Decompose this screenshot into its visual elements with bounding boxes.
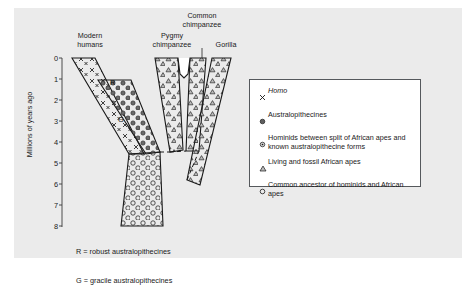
legend-label-homo: Homo <box>268 87 287 96</box>
legend-item-hominids-between-split: Hominids between split of African apes a… <box>257 134 413 152</box>
branch-pygmy-chimpanzee <box>155 58 183 152</box>
pygmy-common-chimpanzee-split-notch <box>178 58 190 78</box>
triangle-marker <box>257 158 268 176</box>
legend-item-living-fossil-african-apes: Living and fossil African apes <box>257 158 413 176</box>
legend-item-common-ancestor: Common ancestor of hominids and African … <box>257 181 413 199</box>
dotted-circle-marker <box>257 134 268 152</box>
legend-label-australopithecines: Australopithecines <box>268 111 327 120</box>
open-circle-marker <box>257 181 268 199</box>
legend: Homo Australopithecines Hominids between… <box>249 79 421 187</box>
legend-item-homo: Homo <box>257 87 413 105</box>
filled-circle-marker <box>257 111 268 129</box>
legend-label-hominids-between-split: Hominids between split of African apes a… <box>268 134 413 151</box>
branch-common-ancestor <box>121 152 163 226</box>
y-axis <box>59 58 62 227</box>
legend-label-living-fossil-african-apes: Living and fossil African apes <box>268 158 361 167</box>
footnote-gracile: G = gracile australopithecines <box>76 276 172 286</box>
footnote-robust: R = robust australopithecines <box>76 247 172 257</box>
cross-marker <box>257 87 268 105</box>
inline-label-robust: R <box>110 78 115 87</box>
footnotes: R = robust australopithecines G = gracil… <box>76 228 172 289</box>
inline-label-gracile: G <box>118 115 124 124</box>
legend-label-common-ancestor: Common ancestor of hominids and African … <box>268 181 413 198</box>
legend-item-australopithecines: Australopithecines <box>257 111 413 129</box>
